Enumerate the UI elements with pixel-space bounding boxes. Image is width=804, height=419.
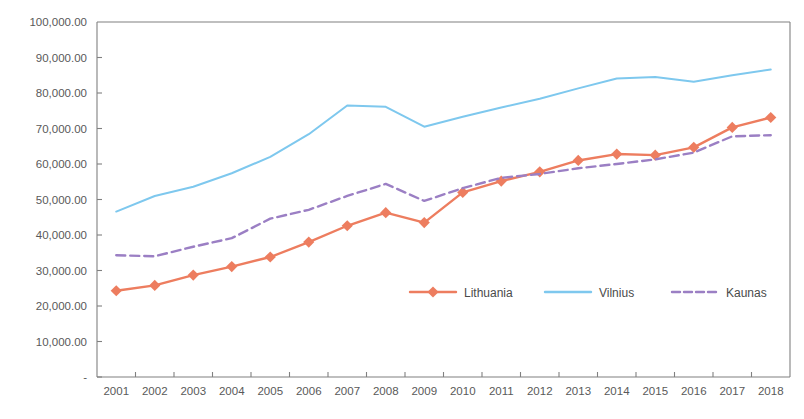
x-tick-label: 2003 <box>180 385 206 397</box>
y-tick-label: 20,000.00 <box>36 300 87 312</box>
x-tick-label: 2001 <box>103 385 129 397</box>
x-tick-label: 2008 <box>373 385 399 397</box>
x-tick-label: 2017 <box>719 385 745 397</box>
x-tick-label: 2015 <box>642 385 668 397</box>
x-tick-label: 2013 <box>565 385 591 397</box>
y-tick-label: 50,000.00 <box>36 194 87 206</box>
x-tick-label: 2014 <box>604 385 630 397</box>
y-tick-label: 40,000.00 <box>36 229 87 241</box>
y-tick-label: 30,000.00 <box>36 265 87 277</box>
legend-label: Kaunas <box>726 286 767 300</box>
y-tick-label: 100,000.00 <box>29 16 87 28</box>
x-tick-label: 2012 <box>527 385 553 397</box>
x-tick-label: 2007 <box>334 385 360 397</box>
x-tick-label: 2004 <box>219 385 245 397</box>
x-tick-label: 2011 <box>489 385 514 397</box>
x-tick-label: 2018 <box>758 385 784 397</box>
x-tick-label: 2016 <box>681 385 707 397</box>
legend-label: Lithuania <box>464 286 513 300</box>
y-tick-label: - <box>83 371 87 383</box>
x-tick-label: 2010 <box>450 385 476 397</box>
x-tick-label: 2002 <box>142 385 168 397</box>
y-tick-label: 60,000.00 <box>36 158 87 170</box>
y-tick-label: 70,000.00 <box>36 123 87 135</box>
y-tick-label: 90,000.00 <box>36 52 87 64</box>
x-tick-label: 2009 <box>411 385 437 397</box>
y-tick-label: 10,000.00 <box>36 336 87 348</box>
x-tick-label: 2005 <box>257 385 283 397</box>
x-tick-label: 2006 <box>296 385 322 397</box>
line-chart: -10,000.0020,000.0030,000.0040,000.0050,… <box>0 0 804 419</box>
legend-label: Vilnius <box>599 286 634 300</box>
y-tick-label: 80,000.00 <box>36 87 87 99</box>
